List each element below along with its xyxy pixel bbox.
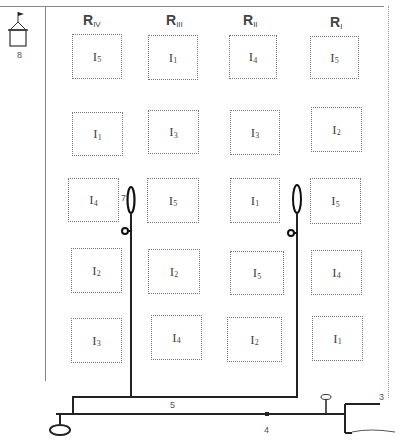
flow-meter-left-icon <box>118 180 140 240</box>
callout-5: 5 <box>170 400 175 410</box>
callout-3: 3 <box>379 392 384 402</box>
flow-meter-right-icon <box>285 183 307 243</box>
callout-4: 4 <box>264 425 269 435</box>
callout-7: 7 <box>121 193 126 203</box>
irrigation-pipe-network <box>0 0 401 447</box>
